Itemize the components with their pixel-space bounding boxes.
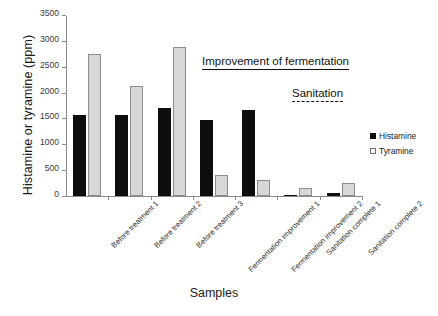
y-axis-tick: 1500 [26, 118, 66, 119]
y-axis-tick-mark [62, 118, 66, 119]
x-axis-label: Fermentation improvement 1 [247, 199, 322, 274]
legend-swatch-histamine [370, 133, 376, 139]
y-axis-tick: 3000 [26, 41, 66, 42]
chart-legend: HistamineTyramine [370, 131, 436, 161]
bar-histamine[interactable] [73, 115, 86, 196]
bar-group [109, 16, 151, 196]
bar-group [321, 16, 363, 196]
y-axis-tick-mark [62, 15, 66, 16]
x-axis-line [66, 196, 362, 197]
y-axis-tick-mark [62, 93, 66, 94]
plot-area: 0500100015002000250030003500 [66, 16, 362, 197]
y-axis-tick-mark [62, 196, 66, 197]
y-axis-tick-mark [62, 170, 66, 171]
bar-histamine[interactable] [327, 193, 340, 196]
bar-series-container [67, 16, 362, 196]
y-axis-tick-mark [62, 67, 66, 68]
bar-tyramine[interactable] [299, 188, 312, 196]
y-axis-tick-label: 1000 [40, 137, 59, 147]
bar-tyramine[interactable] [215, 175, 228, 196]
bar-group [152, 16, 194, 196]
y-axis-tick-label: 2000 [40, 86, 59, 96]
bar-tyramine[interactable] [130, 86, 143, 196]
y-axis-tick: 500 [26, 170, 66, 171]
y-axis-tick: 1000 [26, 144, 66, 145]
legend-swatch-tyramine [370, 148, 376, 154]
bar-histamine[interactable] [242, 110, 255, 196]
legend-item[interactable]: Histamine [370, 131, 436, 141]
bar-tyramine[interactable] [342, 183, 355, 196]
y-axis-tick-label: 0 [54, 189, 59, 199]
y-axis-tick-label: 500 [45, 163, 59, 173]
bar-chart-figure: Histamine or tyramine (ppm) 050010001500… [0, 0, 438, 316]
bar-group [278, 16, 320, 196]
legend-item[interactable]: Tyramine [370, 146, 436, 156]
bar-group [67, 16, 109, 196]
y-axis-tick-label: 2500 [40, 60, 59, 70]
y-axis-tick: 2000 [26, 93, 66, 94]
x-axis-label: Fermentation improvement 2 [289, 199, 364, 274]
y-axis-title: Histamine or tyramine (ppm) [21, 5, 35, 225]
y-axis-tick: 0 [26, 196, 66, 197]
y-axis-tick-label: 1500 [40, 111, 59, 121]
x-axis-category-labels: Before treatment 1Before treatment 2Befo… [66, 199, 366, 279]
y-axis-tick: 3500 [26, 15, 66, 16]
bar-tyramine[interactable] [173, 47, 186, 196]
y-axis-tick-label: 3500 [40, 8, 59, 18]
bar-histamine[interactable] [284, 195, 297, 196]
x-axis-title: Samples [66, 286, 362, 300]
annotation-sanitation: Sanitation [292, 87, 343, 102]
annotation-improvement-of-fermentation: Improvement of fermentation [202, 55, 349, 70]
bar-histamine[interactable] [115, 115, 128, 196]
bar-histamine[interactable] [200, 120, 213, 196]
bar-tyramine[interactable] [257, 180, 270, 196]
legend-label: Tyramine [379, 146, 413, 156]
legend-label: Histamine [379, 131, 416, 141]
y-axis-tick-label: 3000 [40, 34, 59, 44]
y-axis-tick-mark [62, 144, 66, 145]
bar-group [194, 16, 236, 196]
bar-group [236, 16, 278, 196]
bar-tyramine[interactable] [88, 54, 101, 196]
y-axis-tick: 2500 [26, 67, 66, 68]
y-axis-tick-mark [62, 41, 66, 42]
bar-histamine[interactable] [158, 108, 171, 196]
